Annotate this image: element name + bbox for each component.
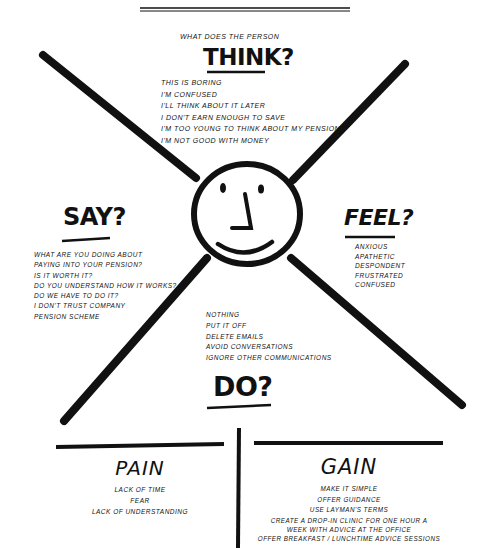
say-item: paying into your pension? xyxy=(34,260,177,270)
feel-item: Confused xyxy=(355,280,405,290)
feel-title: FEEL? xyxy=(344,205,413,230)
gain-title: GAIN xyxy=(254,455,444,479)
feel-item: Anxious xyxy=(355,242,405,252)
vertical-divider xyxy=(238,428,239,548)
pain-divider xyxy=(56,444,224,447)
gain-item: Offer breakfast / lunchtime advice sessi… xyxy=(244,534,454,545)
say-item: pension scheme xyxy=(34,312,177,322)
gain-item: Make it simple xyxy=(244,484,454,495)
do-item: Nothing xyxy=(206,310,332,321)
face-icon xyxy=(194,164,300,264)
say-list: What are you doing about paying into you… xyxy=(34,250,177,322)
say-item: I don't trust company xyxy=(34,301,177,311)
gain-item: Create a drop-in clinic for one hour a xyxy=(244,516,454,527)
think-subtitle: What does the person xyxy=(180,31,279,43)
do-item: Ignore other communications xyxy=(206,353,332,364)
do-item: Put it off xyxy=(206,321,332,332)
say-item: What are you doing about xyxy=(34,250,177,260)
pain-list: Lack of time Fear Lack of understanding xyxy=(56,484,224,517)
do-list: Nothing Put it off Delete emails Avoid c… xyxy=(206,310,332,364)
feel-item: Frustrated xyxy=(355,271,405,281)
say-title: SAY? xyxy=(63,203,126,231)
feel-item: Apathetic xyxy=(355,252,405,262)
gain-item: Use layman's terms xyxy=(244,505,454,516)
say-item: Do we have to do it? xyxy=(34,291,177,301)
think-title: THINK? xyxy=(203,44,294,70)
say-item: Do you understand how it works? xyxy=(34,281,177,291)
feel-list: Anxious Apathetic Despondent Frustrated … xyxy=(355,242,405,290)
do-title: DO? xyxy=(213,371,273,402)
think-item: I'll think about it later xyxy=(161,100,340,112)
pain-item: Lack of time xyxy=(56,484,224,495)
pain-title: PAIN xyxy=(56,456,224,480)
think-item: This is boring xyxy=(161,77,340,89)
pain-item: Lack of understanding xyxy=(56,506,224,517)
think-item: I don't earn enough to save xyxy=(161,112,340,124)
gain-item: week with advice at the office xyxy=(244,526,454,534)
gain-item: Offer guidance xyxy=(244,495,454,506)
feel-item: Despondent xyxy=(355,261,405,271)
do-item: Delete emails xyxy=(206,332,332,343)
do-item: Avoid conversations xyxy=(206,342,332,353)
think-item: I'm too young to think about my pension xyxy=(161,123,340,135)
think-item: I'm not good with money xyxy=(161,135,340,147)
say-item: Is it worth it? xyxy=(34,271,177,281)
pain-item: Fear xyxy=(56,495,224,506)
think-list: This is boring I'm confused I'll think a… xyxy=(161,77,340,146)
think-item: I'm confused xyxy=(161,89,340,101)
gain-list: Make it simple Offer guidance Use layman… xyxy=(244,484,454,545)
